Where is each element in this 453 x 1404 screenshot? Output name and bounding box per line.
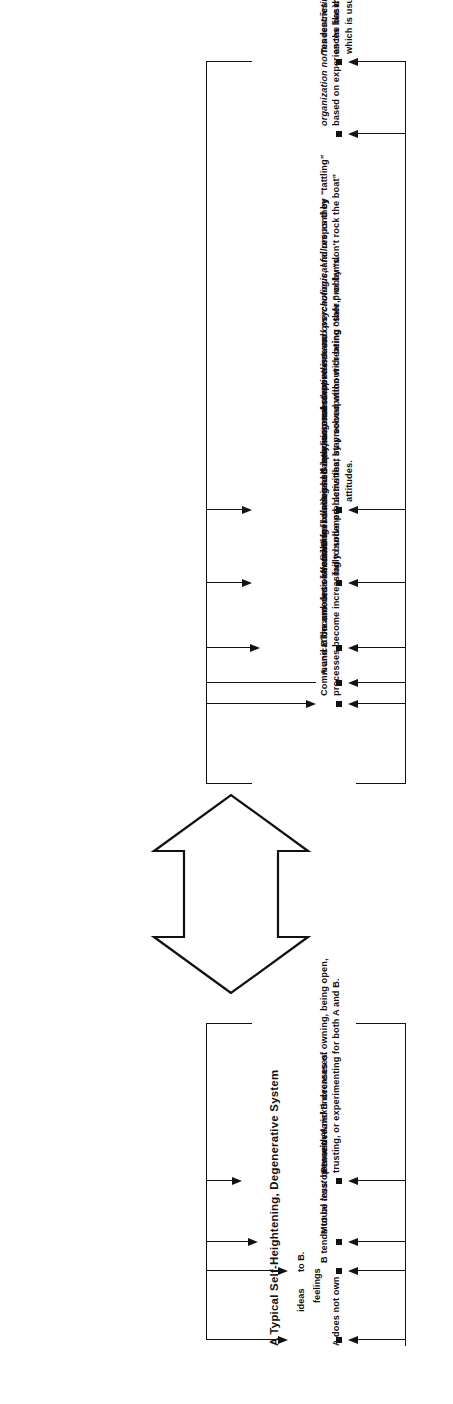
upper-bullet-2 xyxy=(336,680,342,686)
lower-bullet-3 xyxy=(336,1239,342,1245)
bidirectional-reinforcing-arrow xyxy=(116,789,346,999)
upper-bullet-3 xyxy=(336,645,342,651)
emphasis: risk xyxy=(319,1109,329,1126)
upper-arrowhead-2 xyxy=(348,680,358,688)
lower-out-stem-3 xyxy=(206,1241,248,1242)
lower-stem-3 xyxy=(358,1241,406,1242)
lower-out-arrowhead-4 xyxy=(232,1178,242,1186)
upper-arrowhead-3 xyxy=(348,645,358,653)
upper-bullet-6 xyxy=(336,131,342,137)
upper-out-stem-4 xyxy=(206,582,242,583)
lower-out-arrowhead-2 xyxy=(278,1268,288,1276)
upper-stem-6 xyxy=(358,133,406,134)
rotated-artwork: A Typical Self-Heightening, Degenerative… xyxy=(0,0,453,1404)
upper-bullet-7 xyxy=(336,59,342,65)
lower-out-rail-right xyxy=(206,1023,252,1024)
lower-stem-1 xyxy=(358,1339,406,1340)
upper-output-rail xyxy=(206,62,207,784)
upper-bullet-4 xyxy=(336,580,342,586)
upper-stem-2 xyxy=(358,682,406,683)
upper-arrowhead-4 xyxy=(348,580,358,588)
figure-page: A Typical Self-Heightening, Degenerative… xyxy=(0,0,453,1404)
upper-out-rail-left xyxy=(206,783,252,784)
upper-out-stem-2 xyxy=(206,682,316,683)
lower-item-1-stacked-b: feelings xyxy=(312,1268,322,1303)
lower-arrowhead-1 xyxy=(348,1337,358,1345)
lower-item-1-tail: to B. xyxy=(296,1252,306,1272)
upper-out-arrowhead-3 xyxy=(250,645,260,653)
lower-arrowhead-4 xyxy=(348,1178,358,1186)
upper-item-7: Tendencies toward fragmentation of organ… xyxy=(318,0,355,54)
lower-output-rail xyxy=(206,1024,207,1340)
lower-out-stem-2 xyxy=(206,1270,278,1271)
upper-feedback-rail xyxy=(405,62,406,784)
lower-arrowhead-2 xyxy=(348,1268,358,1276)
upper-stem-5 xyxy=(358,509,406,510)
lower-stem-4 xyxy=(358,1180,406,1181)
lower-item-1-lead: A does not own xyxy=(331,1277,341,1346)
upper-bullet-1 xyxy=(336,701,342,707)
upper-out-stem-5 xyxy=(206,509,242,510)
lower-out-stem-4 xyxy=(206,1180,232,1181)
upper-arrowhead-1 xyxy=(348,701,358,709)
upper-out-arrowhead-1 xyxy=(306,701,316,709)
lower-bullet-2 xyxy=(336,1268,342,1274)
upper-bullet-5 xyxy=(336,507,342,513)
lower-out-arrowhead-3 xyxy=(248,1239,258,1247)
lower-bullet-4 xyxy=(336,1178,342,1184)
upper-out-stem-3 xyxy=(206,647,250,648)
upper-stem-7 xyxy=(358,61,406,62)
lower-feedback-rail xyxy=(405,1024,406,1346)
upper-rail-left-riser xyxy=(356,783,406,784)
upper-stem-3 xyxy=(358,647,406,648)
upper-out-arrowhead-4 xyxy=(242,580,252,588)
lower-arrowhead-3 xyxy=(348,1239,358,1247)
upper-out-stem-1 xyxy=(206,703,306,704)
upper-arrowhead-5 xyxy=(348,507,358,515)
emphasis: dependent and overcautious xyxy=(319,273,329,401)
upper-out-stem-7 xyxy=(206,61,252,62)
upper-out-arrowhead-5 xyxy=(242,507,252,515)
lower-out-arrowhead-1 xyxy=(278,1337,288,1345)
lower-out-stem-1 xyxy=(206,1339,278,1340)
lower-stem-2 xyxy=(358,1270,406,1271)
lower-item-1-stacked-a: ideas xyxy=(296,1289,306,1313)
emphasis: trust xyxy=(319,1180,329,1201)
lower-rail-right-riser xyxy=(356,1023,406,1024)
figure-title: A Typical Self-Heightening, Degenerative… xyxy=(268,1070,280,1346)
upper-stem-1 xyxy=(358,703,406,704)
upper-stem-4 xyxy=(358,582,406,583)
